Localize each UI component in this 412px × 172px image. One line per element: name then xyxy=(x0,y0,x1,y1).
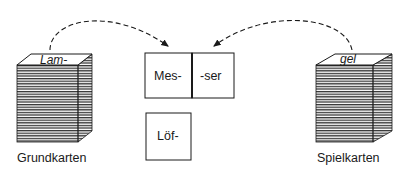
svg-text:Mes-: Mes- xyxy=(154,69,182,83)
arrow-right-to-ser xyxy=(214,20,352,50)
card-mes: Mes- xyxy=(145,53,192,98)
grundkarten-stack: Lam- xyxy=(17,53,92,142)
svg-text:Löf-: Löf- xyxy=(157,129,179,143)
card-loef: Löf- xyxy=(146,113,191,160)
arrow-left-to-mes xyxy=(50,21,168,50)
spielkarten-label: Spielkarten xyxy=(317,151,380,165)
svg-text:-ser: -ser xyxy=(200,69,222,83)
top-card-gel: gel xyxy=(340,52,356,66)
card-game-diagram: Lam- Grundkarten gel Spielkarten Mes- -s… xyxy=(0,0,412,172)
top-card-lam: Lam- xyxy=(40,53,67,67)
card-ser: -ser xyxy=(192,53,234,98)
spielkarten-stack: gel xyxy=(316,52,392,142)
grundkarten-label: Grundkarten xyxy=(17,151,87,165)
